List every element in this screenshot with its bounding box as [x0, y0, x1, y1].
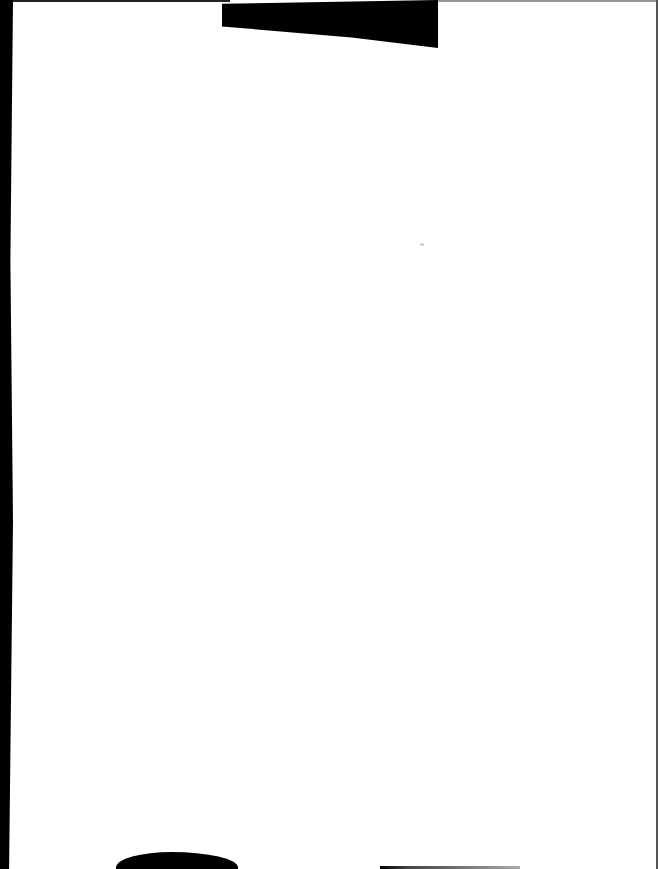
- scan-bottom-artifact: [116, 852, 238, 869]
- scan-top-artifact: [222, 0, 438, 48]
- scan-top-border: [0, 0, 658, 2]
- scan-speck: [420, 243, 424, 246]
- blank-scanned-page: [0, 0, 658, 869]
- scan-left-edge-shadow: [0, 0, 13, 869]
